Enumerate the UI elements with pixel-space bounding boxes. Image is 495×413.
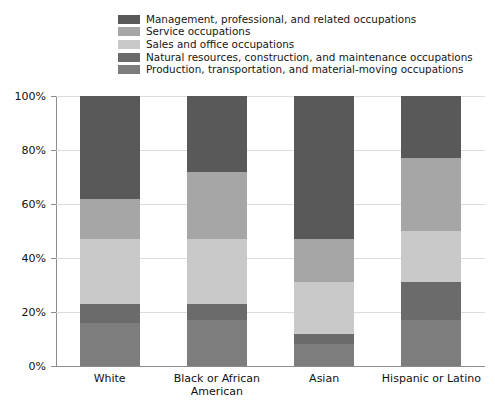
bar-segment[interactable] <box>294 282 354 333</box>
bar-stack[interactable] <box>187 96 247 366</box>
bar-segment[interactable] <box>187 96 247 172</box>
bar-stack[interactable] <box>401 96 461 366</box>
y-axis-tick-label: 80% <box>2 145 46 156</box>
bar-segment[interactable] <box>80 239 140 304</box>
bar-segment[interactable] <box>401 320 461 366</box>
bar-segment[interactable] <box>187 239 247 304</box>
x-axis-tick-label-line: Hispanic or Latino <box>378 373 485 386</box>
stacked-bar-chart: Management, professional, and related oc… <box>0 0 495 413</box>
bar-stack[interactable] <box>294 96 354 366</box>
bar-segment[interactable] <box>401 158 461 231</box>
y-axis-tick-label: 0% <box>2 361 46 372</box>
chart-legend: Management, professional, and related oc… <box>118 13 488 76</box>
y-axis-tick <box>51 312 56 313</box>
y-axis-tick <box>51 204 56 205</box>
y-axis-tick-label: 60% <box>2 199 46 210</box>
x-axis-tick-label-line: White <box>56 373 163 386</box>
bar-stack[interactable] <box>80 96 140 366</box>
legend-swatch-icon <box>118 15 140 24</box>
bar-segment[interactable] <box>187 304 247 320</box>
y-axis-tick-label: 20% <box>2 307 46 318</box>
legend-item-label: Service occupations <box>146 26 250 37</box>
legend-item-label: Natural resources, construction, and mai… <box>146 52 473 63</box>
y-axis-tick-label: 40% <box>2 253 46 264</box>
bar-segment[interactable] <box>401 96 461 158</box>
y-axis-tick-label: 100% <box>2 91 46 102</box>
x-axis-tick-label: Asian <box>271 373 378 386</box>
legend-swatch-icon <box>118 53 140 62</box>
x-axis-tick-label: Black or AfricanAmerican <box>163 373 270 398</box>
x-axis-tick-label: White <box>56 373 163 386</box>
legend-swatch-icon <box>118 27 140 36</box>
plot-area <box>56 96 485 366</box>
legend-item-label: Production, transportation, and material… <box>146 64 463 75</box>
bar-segment[interactable] <box>294 239 354 282</box>
bar-segment[interactable] <box>187 172 247 240</box>
bar-segment[interactable] <box>401 282 461 320</box>
legend-item[interactable]: Natural resources, construction, and mai… <box>118 51 488 64</box>
legend-item-label: Management, professional, and related oc… <box>146 14 416 25</box>
bar-segment[interactable] <box>80 323 140 366</box>
bar-segment[interactable] <box>80 304 140 323</box>
legend-item-label: Sales and office occupations <box>146 39 294 50</box>
x-axis-tick-label-line: Asian <box>271 373 378 386</box>
y-axis-tick <box>51 366 56 367</box>
bar-segment[interactable] <box>80 199 140 240</box>
legend-item[interactable]: Sales and office occupations <box>118 38 488 51</box>
legend-swatch-icon <box>118 65 140 74</box>
bar-segment[interactable] <box>294 334 354 345</box>
bar-segment[interactable] <box>401 231 461 282</box>
bar-segment[interactable] <box>294 96 354 239</box>
legend-swatch-icon <box>118 40 140 49</box>
x-axis-tick-label: Hispanic or Latino <box>378 373 485 386</box>
bar-segment[interactable] <box>294 344 354 366</box>
y-axis-tick <box>51 258 56 259</box>
bar-segment[interactable] <box>80 96 140 199</box>
legend-item[interactable]: Service occupations <box>118 26 488 39</box>
legend-item[interactable]: Production, transportation, and material… <box>118 63 488 76</box>
y-axis-tick <box>51 150 56 151</box>
legend-item[interactable]: Management, professional, and related oc… <box>118 13 488 26</box>
y-axis-tick <box>51 96 56 97</box>
x-axis-tick-label-line: Black or African <box>163 373 270 386</box>
x-axis-line <box>56 366 485 367</box>
bar-segment[interactable] <box>187 320 247 366</box>
x-axis-tick-label-line: American <box>163 386 270 399</box>
